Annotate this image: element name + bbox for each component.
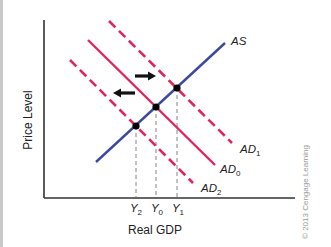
ad0-label: AD0 [220, 163, 240, 178]
copyright-notice: © 2013 Cengage Learning [301, 145, 310, 239]
tick-label-y0: Y0 [151, 202, 163, 217]
shift-left-arrow [113, 89, 135, 98]
ad1-curve [109, 21, 232, 143]
y-axis-label: Price Level [21, 90, 35, 149]
x-axis-label: Real GDP [128, 223, 182, 237]
tick-label-y1: Y1 [172, 202, 184, 217]
ad2-label: AD2 [201, 182, 221, 197]
shift-right-arrow [135, 72, 156, 81]
equilibrium-point-e0 [152, 103, 159, 110]
tick-label-y2: Y2 [130, 202, 142, 217]
ad0-curve [88, 40, 215, 165]
ad1-label: AD1 [240, 143, 260, 158]
equilibrium-point-e2 [132, 122, 139, 129]
as-label: AS [231, 35, 246, 47]
ad2-curve [70, 60, 193, 183]
ad-as-diagram [0, 0, 331, 247]
equilibrium-point-e1 [173, 84, 180, 91]
as-curve [96, 43, 225, 162]
